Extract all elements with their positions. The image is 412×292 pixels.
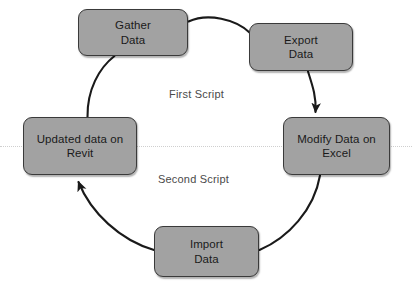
- node-modify-data-on-excel[interactable]: Modify Data on Excel: [283, 117, 390, 175]
- label-second-script: Second Script: [158, 173, 229, 185]
- node-gather-data[interactable]: Gather Data: [78, 9, 188, 56]
- connector-export-to-modify: [308, 72, 316, 113]
- connector-modify-to-import: [260, 176, 321, 251]
- node-import-data-label: Import Data: [187, 237, 226, 266]
- connector-updated-to-gather: [87, 56, 114, 117]
- node-import-data[interactable]: Import Data: [154, 226, 259, 277]
- node-updated-data-on-revit[interactable]: Updated data on Revit: [23, 117, 137, 175]
- node-updated-data-on-revit-label: Updated data on Revit: [34, 132, 127, 161]
- diagram-canvas: Gather Data Export Data Modify Data on E…: [0, 0, 412, 292]
- node-export-data-label: Export Data: [281, 33, 321, 62]
- connector-import-to-updated: [79, 182, 155, 250]
- connector-gather-to-export: [189, 17, 250, 32]
- node-gather-data-label: Gather Data: [112, 18, 154, 47]
- node-export-data[interactable]: Export Data: [249, 23, 353, 71]
- node-modify-data-on-excel-label: Modify Data on Excel: [294, 132, 379, 161]
- label-first-script: First Script: [169, 88, 224, 100]
